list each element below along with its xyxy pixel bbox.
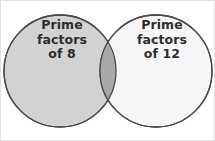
venn-diagram-graphic (1, 1, 215, 141)
venn-diagram: Prime factors of 8 Prime factors of 12 (0, 0, 215, 141)
